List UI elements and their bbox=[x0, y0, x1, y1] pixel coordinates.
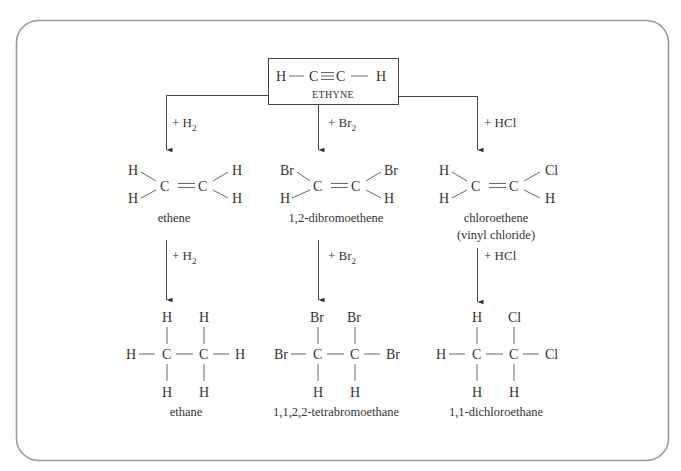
reagent-hcl-step2: + HCl bbox=[484, 248, 517, 263]
svg-text:+ H2: + H2 bbox=[172, 248, 196, 266]
svg-text:H: H bbox=[162, 385, 172, 400]
svg-text:Br: Br bbox=[384, 163, 398, 178]
ethyne-c1: C bbox=[309, 69, 318, 84]
tetrabromoethane-label: 1,1,2,2-tetrabromoethane bbox=[273, 405, 399, 419]
svg-text:H: H bbox=[545, 191, 555, 206]
svg-text:+ H2: + H2 bbox=[172, 115, 196, 133]
dibromoethene-label: 1,2-dibromoethene bbox=[289, 211, 384, 225]
molecule-dibromoethene: Br H C C Br H 1,2-dibromoethene bbox=[280, 163, 398, 225]
dichloroethane-label: 1,1-dichloroethane bbox=[449, 405, 544, 419]
reagent-br2-step1: + Br2 bbox=[328, 115, 356, 133]
reagent-h2-step1: + H2 bbox=[172, 115, 196, 133]
svg-text:Cl: Cl bbox=[545, 347, 558, 362]
reaction-diagram: H C C H ETHYNE + H2 + Br2 + HCl H H C C bbox=[0, 0, 681, 471]
svg-text:Br: Br bbox=[386, 347, 400, 362]
svg-text:+ Br2: + Br2 bbox=[328, 248, 356, 266]
svg-text:C: C bbox=[198, 179, 207, 194]
svg-text:H: H bbox=[126, 347, 136, 362]
svg-text:Cl: Cl bbox=[508, 310, 521, 325]
ethyne-h-right: H bbox=[376, 69, 386, 84]
svg-text:C: C bbox=[350, 347, 359, 362]
svg-text:+ HCl: + HCl bbox=[484, 115, 517, 130]
svg-text:C: C bbox=[471, 179, 480, 194]
svg-text:H: H bbox=[313, 385, 323, 400]
ethyne-c2: C bbox=[336, 69, 345, 84]
svg-text:H: H bbox=[439, 163, 449, 178]
svg-text:H: H bbox=[350, 385, 360, 400]
svg-text:H: H bbox=[162, 310, 172, 325]
ethyne-box: H C C H ETHYNE bbox=[269, 59, 399, 105]
svg-text:C: C bbox=[199, 347, 208, 362]
svg-text:H: H bbox=[509, 385, 519, 400]
molecule-chloroethene: H H C C Cl H chloroethene (vinyl chlorid… bbox=[439, 163, 558, 242]
ethene-label: ethene bbox=[158, 211, 191, 225]
svg-text:H: H bbox=[128, 191, 138, 206]
reagent-hcl-step1: + HCl bbox=[484, 115, 517, 130]
svg-text:H: H bbox=[199, 385, 209, 400]
svg-text:+ HCl: + HCl bbox=[484, 248, 517, 263]
svg-text:Br: Br bbox=[347, 310, 361, 325]
svg-text:H: H bbox=[280, 191, 290, 206]
svg-text:H: H bbox=[439, 191, 449, 206]
svg-text:H: H bbox=[472, 385, 482, 400]
reagent-br2-step2: + Br2 bbox=[328, 248, 356, 266]
svg-text:H: H bbox=[436, 347, 446, 362]
svg-text:H: H bbox=[128, 163, 138, 178]
svg-text:C: C bbox=[162, 347, 171, 362]
svg-text:Cl: Cl bbox=[545, 163, 558, 178]
svg-text:H: H bbox=[235, 347, 245, 362]
svg-text:C: C bbox=[351, 179, 360, 194]
molecule-ethene: H H C C H H ethene bbox=[128, 163, 242, 225]
svg-text:Br: Br bbox=[274, 347, 288, 362]
svg-text:+ Br2: + Br2 bbox=[328, 115, 356, 133]
svg-text:H: H bbox=[199, 310, 209, 325]
svg-text:Br: Br bbox=[310, 310, 324, 325]
vinyl-chloride-label: (vinyl chloride) bbox=[457, 228, 535, 242]
reagent-h2-step2: + H2 bbox=[172, 248, 196, 266]
chloroethene-label: chloroethene bbox=[464, 211, 529, 225]
svg-text:H: H bbox=[232, 163, 242, 178]
svg-text:C: C bbox=[509, 179, 518, 194]
svg-text:C: C bbox=[313, 179, 322, 194]
ethane-label: ethane bbox=[170, 405, 203, 419]
step2-arrows bbox=[167, 240, 478, 302]
ethyne-h-left: H bbox=[276, 69, 286, 84]
svg-text:C: C bbox=[160, 179, 169, 194]
svg-text:C: C bbox=[472, 347, 481, 362]
svg-text:H: H bbox=[232, 191, 242, 206]
molecule-tetrabromoethane: Br Br Br C C Br H H 1,1,2,2-tetrabromoet… bbox=[273, 310, 400, 419]
svg-text:C: C bbox=[509, 347, 518, 362]
molecule-ethane: H H H C C H H H ethane bbox=[126, 310, 245, 419]
molecule-dichloroethane: H Cl H C C Cl H H 1,1-dichloroethane bbox=[436, 310, 558, 419]
ethyne-label: ETHYNE bbox=[312, 89, 354, 100]
svg-text:H: H bbox=[472, 310, 482, 325]
svg-text:C: C bbox=[313, 347, 322, 362]
svg-text:Br: Br bbox=[280, 163, 294, 178]
svg-text:H: H bbox=[384, 191, 394, 206]
